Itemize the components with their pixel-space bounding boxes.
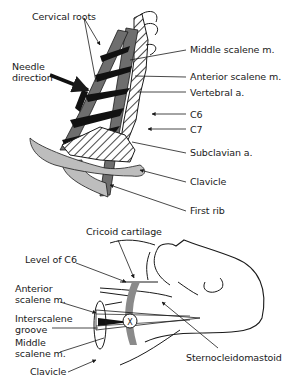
needle-direction-arrow (50, 75, 88, 90)
label-needle-direction: Needle direction (12, 61, 53, 83)
label-middle-scalene-bottom: Middle scalene m. (15, 337, 66, 359)
label-sternocleidomastoid: Sternocleidomastoid (186, 352, 282, 363)
label-anterior-scalene-bottom: Anterior scalene m. (15, 283, 66, 305)
label-anterior-scalene: Anterior scalene m. (190, 71, 281, 82)
label-cervical-roots: Cervical roots (32, 11, 96, 22)
head-outline (145, 240, 264, 342)
label-clavicle-top: Clavicle (190, 176, 226, 187)
svg-text:X: X (127, 318, 133, 327)
label-c6: C6 (190, 109, 202, 120)
label-level-of-c6: Level of C6 (25, 254, 77, 265)
label-interscalene-groove: Interscalene groove (15, 313, 72, 335)
label-clavicle-bottom: Clavicle (30, 366, 66, 377)
label-first-rib: First rib (190, 205, 225, 216)
label-cricoid-cartilage: Cricoid cartilage (86, 226, 162, 237)
label-middle-scalene: Middle scalene m. (190, 44, 274, 55)
top-panel-brachial-plexus (30, 11, 186, 211)
label-vertebral-artery: Vertebral a. (190, 87, 244, 98)
label-subclavian-artery: Subclavian a. (190, 147, 252, 158)
label-c7: C7 (190, 124, 202, 135)
ear (204, 278, 223, 292)
